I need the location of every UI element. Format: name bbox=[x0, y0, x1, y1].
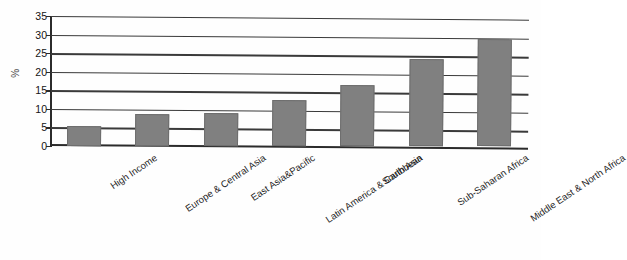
y-axis-tick-label: 5 bbox=[25, 122, 47, 132]
y-axis-tick-mark bbox=[46, 109, 51, 110]
y-axis-tick-label: 30 bbox=[25, 30, 47, 40]
bar bbox=[340, 85, 375, 146]
x-axis-tick-label: Europe & Central Asia bbox=[184, 152, 268, 214]
y-axis-tick-label: 35 bbox=[25, 11, 47, 21]
bar-series-group bbox=[50, 16, 528, 146]
bar bbox=[135, 114, 169, 146]
x-axis-tick-label: High Income bbox=[108, 152, 159, 191]
x-axis-tick-label: Middle East & North Africa bbox=[528, 152, 627, 224]
y-axis-tick-mark bbox=[46, 90, 51, 91]
y-axis-tick-label: 10 bbox=[25, 104, 47, 114]
bar bbox=[272, 100, 306, 146]
x-axis-tick-label: South Asia bbox=[380, 152, 424, 187]
bar bbox=[409, 59, 444, 146]
x-axis-tick-labels: High IncomeEurope & Central AsiaEast Asi… bbox=[0, 146, 541, 256]
bar bbox=[67, 126, 101, 146]
y-axis-tick-labels: 05101520253035 bbox=[26, 10, 50, 152]
y-axis-tick-mark bbox=[46, 72, 51, 73]
y-axis-tick-mark bbox=[46, 16, 51, 17]
bar bbox=[477, 39, 512, 146]
y-axis-tick-label: 20 bbox=[25, 67, 47, 77]
bar bbox=[204, 113, 238, 146]
x-axis-tick-label: Sub-Saharan Africa bbox=[455, 152, 530, 208]
y-axis-tick-mark bbox=[46, 35, 51, 36]
y-axis-tick-mark bbox=[46, 53, 51, 54]
y-axis-tick-mark bbox=[46, 127, 51, 128]
y-axis-tick-label: 25 bbox=[25, 48, 47, 58]
y-axis-tick-mark bbox=[46, 146, 51, 147]
y-axis-tick-label: 15 bbox=[25, 85, 47, 95]
